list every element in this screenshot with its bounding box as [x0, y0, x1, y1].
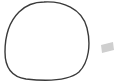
drawing-canvas — [0, 0, 115, 84]
hand-drawn-circle — [5, 2, 89, 80]
gray-parallelogram — [101, 42, 114, 53]
